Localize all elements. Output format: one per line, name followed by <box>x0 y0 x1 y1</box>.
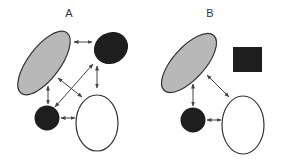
diagram: A B <box>0 0 281 159</box>
panel-b: B <box>152 7 264 154</box>
panel-a-black-ellipse <box>89 27 133 70</box>
panel-b-arrow-gray-to-white <box>207 75 229 97</box>
panel-a-black-circle <box>35 106 60 131</box>
panel-b-gray-ellipse <box>152 25 225 101</box>
panel-b-black-square <box>233 47 262 72</box>
panel-label-b: B <box>206 7 213 19</box>
panel-a: A <box>8 7 133 151</box>
panel-label-a: A <box>65 7 73 19</box>
panel-b-black-circle <box>181 108 206 133</box>
panel-b-white-ellipse <box>222 96 264 154</box>
panel-a-white-ellipse <box>76 95 118 151</box>
